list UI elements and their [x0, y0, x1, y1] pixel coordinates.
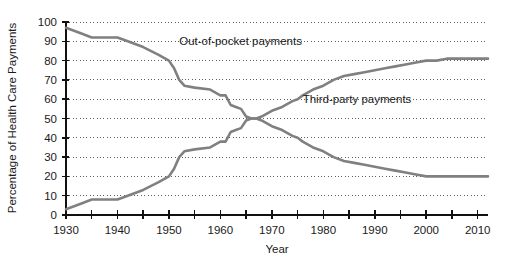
y-tick-label-80: 80: [44, 55, 57, 67]
y-tick-label-100: 100: [38, 16, 57, 28]
y-tick-label-60: 60: [44, 93, 57, 105]
series-line-out-of-pocket: [66, 28, 488, 177]
x-axis-title: Year: [265, 243, 288, 255]
axis-ticks: [62, 22, 478, 219]
y-tick-label-40: 40: [44, 132, 57, 144]
x-tick-label-1990: 1990: [362, 224, 388, 236]
x-tick-label-1940: 1940: [105, 224, 131, 236]
line-chart: 0102030405060708090100 19301940195019601…: [0, 0, 508, 265]
y-tick-label-10: 10: [44, 190, 57, 202]
x-tick-label-2010: 2010: [465, 224, 491, 236]
y-tick-label-30: 30: [44, 151, 57, 163]
y-tick-label-50: 50: [44, 113, 57, 125]
gridlines: [66, 22, 488, 215]
x-axis-tick-labels: 193019401950196019701980199020002010: [53, 224, 490, 236]
y-axis-tick-labels: 0102030405060708090100: [38, 16, 57, 221]
x-tick-label-1950: 1950: [156, 224, 182, 236]
y-tick-label-0: 0: [51, 209, 57, 221]
chart-canvas: 0102030405060708090100 19301940195019601…: [0, 0, 508, 265]
series-label-out-of-pocket: Out-of-pocket payments: [179, 35, 302, 47]
x-tick-label-1960: 1960: [208, 224, 234, 236]
x-tick-label-1930: 1930: [53, 224, 79, 236]
y-axis-title: Percentage of Health Care Payments: [6, 23, 18, 214]
y-tick-label-90: 90: [44, 35, 57, 47]
series-label-third-party: Third-party payments: [303, 93, 412, 105]
y-tick-label-20: 20: [44, 170, 57, 182]
y-tick-label-70: 70: [44, 74, 57, 86]
x-tick-label-1980: 1980: [311, 224, 337, 236]
x-tick-label-2000: 2000: [413, 224, 439, 236]
x-tick-label-1970: 1970: [259, 224, 285, 236]
series-line-third-party: [66, 59, 488, 210]
